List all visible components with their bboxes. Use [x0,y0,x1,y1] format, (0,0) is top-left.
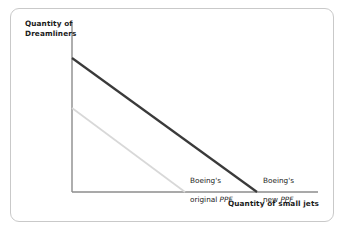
original-ppf-label-line1: Boeing's [190,176,221,185]
new-ppf-label-line1: Boeing's [263,176,294,185]
new-ppf-label-acronym: PPF [280,195,293,204]
original-ppf-line [72,108,185,192]
original-ppf-label-acronym: PPF [220,195,233,204]
new-ppf-label-line2-prefix: new [263,195,280,204]
y-axis-label: Quantity of Dreamliners [25,19,95,39]
original-ppf-label-line2-prefix: original [190,195,220,204]
ppf-figure: Quantity of Dreamliners Quantity of smal… [0,0,344,232]
new-ppf-label: Boeing's new PPF [263,167,325,205]
original-ppf-label: Boeing's original PPF [190,167,252,205]
